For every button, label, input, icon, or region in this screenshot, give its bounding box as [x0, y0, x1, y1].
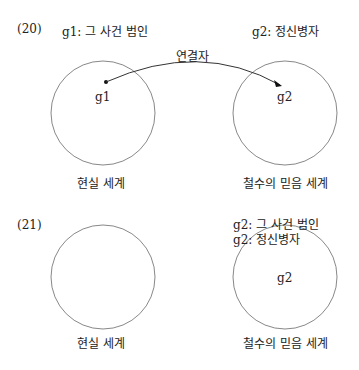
real-world-label-20: 현실 세계 [77, 177, 125, 191]
real-world-circle-21 [51, 225, 155, 329]
arrowhead-icon [274, 80, 282, 87]
g2-label: g2: 정신병자 [252, 25, 319, 39]
example-number-21: (21) [17, 218, 42, 232]
g2-node-21: g2 [277, 271, 292, 285]
connector-arrow [106, 62, 280, 85]
g2-node: g2 [277, 90, 292, 104]
g2-label-1: g2: 그 사건 범인 [233, 218, 319, 232]
example-number-20: (20) [17, 22, 42, 36]
real-world-circle-20 [51, 61, 155, 165]
belief-world-label-21: 철수의 믿음 세계 [243, 337, 328, 351]
g1-node: g1 [95, 90, 110, 104]
belief-world-circle-20 [233, 61, 337, 165]
real-world-label-21: 현실 세계 [77, 337, 125, 351]
belief-world-label-20: 철수의 믿음 세계 [243, 177, 328, 191]
g2-label-2: g2: 정신병자 [233, 233, 300, 247]
g1-label: g1: 그 사건 범인 [62, 25, 148, 39]
connector-label: 연결자 [176, 50, 209, 64]
